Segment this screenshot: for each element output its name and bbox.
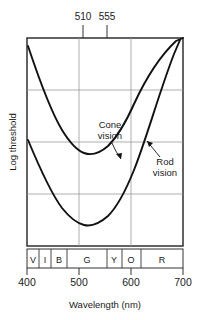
top-tick-label-555: 555 xyxy=(99,11,116,22)
annotation-rod-vision-line1: Rod xyxy=(156,156,173,167)
band-letter-yellow: Y xyxy=(111,255,117,265)
x-axis-title: Wavelength (nm) xyxy=(69,299,141,310)
bottom-tick-label-500: 500 xyxy=(70,276,88,288)
annotation-cone-vision-line1: Cone xyxy=(99,119,122,130)
band-letter-red: R xyxy=(159,255,166,265)
bottom-tick-label-600: 600 xyxy=(122,276,140,288)
annotation-rod-vision-line2: vision xyxy=(153,167,177,178)
top-tick-label-510: 510 xyxy=(75,11,92,22)
band-letter-violet: V xyxy=(30,255,36,265)
annotation-cone-vision-line2: vision xyxy=(98,130,122,141)
threshold-vs-wavelength-chart: 510 555 Cone vision xyxy=(0,0,201,320)
bottom-tick-label-400: 400 xyxy=(18,276,36,288)
y-axis-title: Log threshold xyxy=(7,113,18,171)
band-letter-blue: B xyxy=(56,255,62,265)
annotation-cone-vision: Cone vision xyxy=(98,119,122,159)
band-letter-indigo: I xyxy=(44,255,47,265)
bottom-tick-label-700: 700 xyxy=(174,276,192,288)
figure-container: 510 555 Cone vision xyxy=(0,0,201,320)
band-letter-green: G xyxy=(83,255,90,265)
annotation-rod-vision: Rod vision xyxy=(147,141,177,178)
band-letter-orange: O xyxy=(127,255,134,265)
annotation-cone-vision-arrowhead xyxy=(116,153,122,159)
top-axis-ticks: 510 555 xyxy=(75,11,116,38)
bottom-axis-ticks: 400 500 600 700 xyxy=(18,268,192,288)
spectrum-band: V I B G Y O R xyxy=(27,249,183,268)
